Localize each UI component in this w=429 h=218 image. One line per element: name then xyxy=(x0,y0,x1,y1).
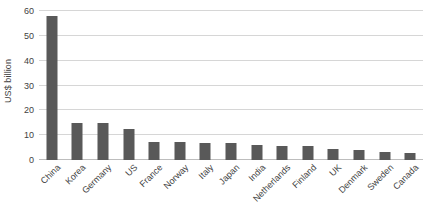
x-axis-label-china: China xyxy=(39,163,62,186)
y-axis-title: US$ billion xyxy=(0,0,16,162)
bar-slot xyxy=(295,11,321,160)
y-axis-title-label: US$ billion xyxy=(3,59,13,103)
bar-slot xyxy=(269,11,295,160)
bar-norway[interactable] xyxy=(174,142,185,160)
x-label-text: US xyxy=(124,163,140,179)
x-axis-label-france: France xyxy=(138,163,164,189)
bar-slot xyxy=(346,11,372,160)
x-label-text: Norway xyxy=(162,163,190,191)
x-label-text: Canada xyxy=(392,163,421,192)
bars-layer xyxy=(39,11,423,160)
x-axis-label-sweden: Sweden xyxy=(366,163,396,193)
x-label-text: India xyxy=(247,163,267,183)
x-label-text: China xyxy=(39,163,62,186)
bar-slot xyxy=(193,11,219,160)
x-label-text: Japan xyxy=(218,163,242,187)
x-axis-label-finland: Finland xyxy=(291,163,319,191)
bar-us[interactable] xyxy=(123,129,134,160)
bar-chart: US$ billion 0102030405060 ChinaKoreaGerm… xyxy=(0,0,429,218)
x-axis-label-india: India xyxy=(247,163,267,183)
y-tick-label-40: 40 xyxy=(24,56,34,65)
bar-sweden[interactable] xyxy=(379,152,390,160)
bar-canada[interactable] xyxy=(405,153,416,160)
bar-slot xyxy=(244,11,270,160)
x-label-text: UK xyxy=(329,163,345,179)
y-tick-label-20: 20 xyxy=(24,106,34,115)
y-tick-label-0: 0 xyxy=(29,156,34,165)
bar-uk[interactable] xyxy=(328,149,339,160)
x-axis-label-uk: UK xyxy=(329,163,345,179)
bar-slot xyxy=(90,11,116,160)
y-tick-label-50: 50 xyxy=(24,31,34,40)
y-tick-label-60: 60 xyxy=(24,7,34,16)
y-axis-tick-labels: 0102030405060 xyxy=(16,0,37,165)
bar-italy[interactable] xyxy=(200,143,211,160)
x-axis-label-japan: Japan xyxy=(218,163,242,187)
x-axis-label-italy: Italy xyxy=(198,163,216,181)
x-axis-label-canada: Canada xyxy=(392,163,421,192)
bar-netherlands[interactable] xyxy=(277,146,288,160)
bar-france[interactable] xyxy=(149,142,160,160)
bar-slot xyxy=(116,11,142,160)
x-axis-category-labels: ChinaKoreaGermanyUSFranceNorwayItalyJapa… xyxy=(39,160,423,218)
plot-area xyxy=(39,11,423,160)
y-tick-label-30: 30 xyxy=(24,81,34,90)
x-label-text: Italy xyxy=(198,163,216,181)
bar-slot xyxy=(397,11,423,160)
bar-slot xyxy=(65,11,91,160)
bar-slot xyxy=(39,11,65,160)
bar-slot xyxy=(218,11,244,160)
bar-slot xyxy=(141,11,167,160)
y-tick-label-10: 10 xyxy=(24,131,34,140)
bar-china[interactable] xyxy=(46,16,57,160)
bar-korea[interactable] xyxy=(72,123,83,160)
x-axis-label-norway: Norway xyxy=(162,163,190,191)
bar-japan[interactable] xyxy=(225,143,236,160)
x-label-text: Sweden xyxy=(366,163,396,193)
bar-slot xyxy=(372,11,398,160)
bar-india[interactable] xyxy=(251,145,262,160)
x-label-text: Finland xyxy=(291,163,319,191)
x-label-text: France xyxy=(138,163,164,189)
bar-denmark[interactable] xyxy=(353,150,364,160)
bar-slot xyxy=(167,11,193,160)
bar-slot xyxy=(321,11,347,160)
bar-germany[interactable] xyxy=(97,123,108,160)
bar-finland[interactable] xyxy=(302,146,313,160)
x-axis-label-us: US xyxy=(124,163,140,179)
